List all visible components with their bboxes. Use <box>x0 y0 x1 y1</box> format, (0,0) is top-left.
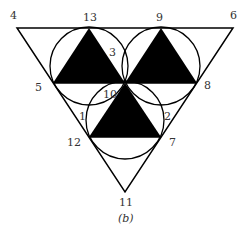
filled-triangle-10-12-7 <box>89 83 161 137</box>
label-2: 2 <box>164 110 171 123</box>
label-11: 11 <box>119 196 133 209</box>
label-8: 8 <box>204 79 211 92</box>
caption: (b) <box>118 212 134 225</box>
label-13: 13 <box>83 11 97 24</box>
label-5: 5 <box>35 81 42 94</box>
label-6: 6 <box>230 9 237 22</box>
label-7: 7 <box>169 136 176 149</box>
label-1: 1 <box>79 110 86 123</box>
label-12: 12 <box>67 136 81 149</box>
label-4: 4 <box>10 9 17 22</box>
label-3: 3 <box>109 46 116 59</box>
configuration-diagram: 4 13 9 6 3 5 10 8 1 2 12 7 11 (b) <box>0 0 249 234</box>
label-10: 10 <box>103 88 117 101</box>
label-9: 9 <box>156 11 163 24</box>
